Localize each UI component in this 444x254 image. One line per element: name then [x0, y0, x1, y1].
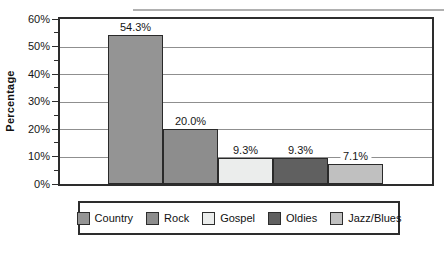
bar-oldies: [273, 158, 328, 184]
legend-swatch-country: [77, 212, 90, 225]
major-tick-60: [52, 19, 58, 20]
legend-item-jazz-blues: Jazz/Blues: [330, 212, 401, 225]
bar-gospel: [218, 158, 273, 184]
tick-label-10: 10%: [14, 150, 50, 163]
legend-item-rock: Rock: [146, 212, 189, 225]
value-label-rock: 20.0%: [172, 115, 209, 127]
legend-label-oldies: Oldies: [286, 212, 317, 224]
legend-label-rock: Rock: [164, 212, 189, 224]
minor-tick-25: [54, 115, 58, 116]
value-label-oldies: 9.3%: [285, 144, 316, 156]
minor-tick-5: [54, 170, 58, 171]
chart-screenshot: Percentage 54.3%20.0%9.3%9.3%7.1% 0%10%2…: [0, 0, 444, 254]
minor-tick-35: [54, 87, 58, 88]
legend-label-country: Country: [95, 212, 134, 224]
minor-tick-45: [54, 60, 58, 61]
value-label-country: 54.3%: [117, 21, 154, 33]
major-tick-10: [52, 156, 58, 157]
value-label-jazz-blues: 7.1%: [340, 150, 371, 162]
legend-swatch-oldies: [268, 212, 281, 225]
tick-label-40: 40%: [14, 68, 50, 81]
major-tick-50: [52, 46, 58, 47]
legend-label-gospel: Gospel: [220, 212, 255, 224]
minor-tick-15: [54, 142, 58, 143]
legend-box: CountryRockGospelOldiesJazz/Blues: [78, 201, 400, 235]
legend-swatch-rock: [146, 212, 159, 225]
bar-rock: [163, 129, 218, 184]
legend-swatch-jazz-blues: [330, 212, 343, 225]
legend-item-country: Country: [77, 212, 134, 225]
legend-swatch-gospel: [202, 212, 215, 225]
legend-item-oldies: Oldies: [268, 212, 317, 225]
tick-label-20: 20%: [14, 123, 50, 136]
top-rule-line: [133, 9, 444, 11]
major-tick-40: [52, 74, 58, 75]
legend-item-gospel: Gospel: [202, 212, 255, 225]
plot-area: 54.3%20.0%9.3%9.3%7.1%: [58, 17, 434, 186]
bar-jazz-blues: [328, 164, 383, 184]
tick-label-0: 0%: [14, 178, 50, 191]
tick-label-50: 50%: [14, 40, 50, 53]
tick-label-60: 60%: [14, 13, 50, 26]
major-tick-30: [52, 101, 58, 102]
bar-country: [108, 35, 163, 184]
value-label-gospel: 9.3%: [230, 144, 261, 156]
tick-label-30: 30%: [14, 95, 50, 108]
major-tick-20: [52, 129, 58, 130]
major-tick-0: [52, 184, 58, 185]
legend-label-jazz-blues: Jazz/Blues: [348, 212, 401, 224]
minor-tick-55: [54, 32, 58, 33]
